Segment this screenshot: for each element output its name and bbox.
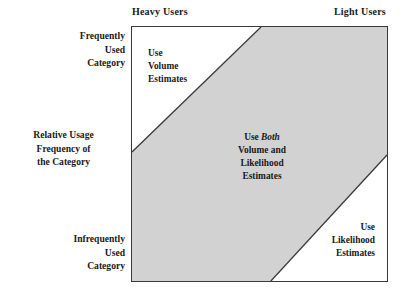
axis-label-line-1: Infrequently <box>73 233 125 244</box>
axis-title-line-1: Relative Usage <box>33 129 93 140</box>
annotation-line-1-prefix: Use <box>244 132 261 142</box>
axis-title-line-3: the Category <box>37 156 90 167</box>
axis-label-line-2: Used <box>105 44 125 55</box>
axis-label-frequently-used-category: Frequently Used Category <box>0 29 125 70</box>
axis-label-line-1: Frequently <box>80 30 125 41</box>
annotation-line-1: Use <box>148 48 163 58</box>
matrix-diagram: Heavy Users Light Users Frequently Used … <box>0 0 408 294</box>
axis-title-line-2: Frequency of <box>37 143 91 154</box>
axis-title-relative-usage-frequency: Relative Usage Frequency of the Category <box>0 128 127 169</box>
annotation-line-1: Use <box>360 222 375 232</box>
annotation-line-2: Likelihood <box>332 235 375 245</box>
axis-label-line-2: Used <box>105 247 125 258</box>
plot-area: Use Volume Estimates Use Both Volume and… <box>131 26 388 282</box>
column-header-light-users: Light Users <box>334 6 386 18</box>
annotation-line-2: Volume and <box>238 145 286 155</box>
annotation-use-likelihood-estimates: Use Likelihood Estimates <box>332 221 375 260</box>
axis-label-line-3: Category <box>87 57 125 68</box>
annotation-use-both-estimates: Use Both Volume and Likelihood Estimates <box>216 131 308 183</box>
annotation-line-4: Estimates <box>242 171 281 181</box>
annotation-line-2: Volume <box>148 61 178 71</box>
axis-label-infrequently-used-category: Infrequently Used Category <box>0 232 125 273</box>
axis-label-line-3: Category <box>87 260 125 271</box>
annotation-line-3: Likelihood <box>240 158 283 168</box>
annotation-use-volume-estimates: Use Volume Estimates <box>148 47 187 86</box>
annotation-line-1-emphasis: Both <box>261 132 280 142</box>
column-header-heavy-users: Heavy Users <box>132 6 188 18</box>
annotation-line-3: Estimates <box>148 74 187 84</box>
annotation-line-3: Estimates <box>336 248 375 258</box>
